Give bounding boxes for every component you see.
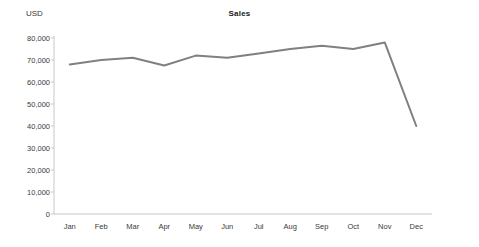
- sales-line-chart: USD Sales 010,00020,00030,00040,00050,00…: [0, 0, 479, 247]
- plot-area: [0, 0, 479, 247]
- series-line-sales: [70, 42, 417, 126]
